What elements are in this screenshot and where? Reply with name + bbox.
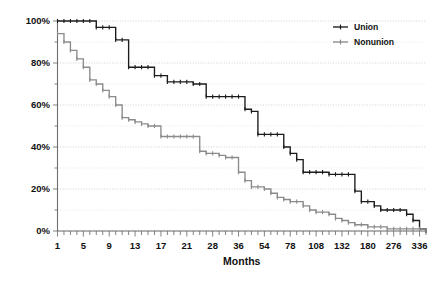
legend-label: Union xyxy=(354,22,378,32)
y-axis-tick-label: 20% xyxy=(31,183,51,194)
line-chart: 100%80%60%40%20%0% 159131721283654781081… xyxy=(0,0,445,283)
y-axis-tick-label: 0% xyxy=(36,225,50,236)
x-axis-tick-labels: 15913172128365478108132180276336 xyxy=(55,240,428,251)
y-axis-tick-label: 40% xyxy=(31,141,51,152)
x-axis-tick-label: 276 xyxy=(386,240,402,251)
x-axis-tick-label: 9 xyxy=(107,240,112,251)
x-axis-tick-label: 336 xyxy=(412,240,428,251)
chart-container: 100%80%60%40%20%0% 159131721283654781081… xyxy=(0,0,445,283)
x-axis-tick-label: 108 xyxy=(308,240,324,251)
y-axis-tick-label: 60% xyxy=(31,99,51,110)
y-axis-tick-label: 100% xyxy=(26,15,51,26)
x-axis-tick-label: 28 xyxy=(207,240,218,251)
x-axis-tick-label: 54 xyxy=(259,240,270,251)
x-axis-tick-label: 180 xyxy=(360,240,376,251)
x-axis-tick-label: 17 xyxy=(156,240,167,251)
x-axis-tick-label: 1 xyxy=(55,240,61,251)
x-axis-title: Months xyxy=(223,255,260,267)
y-axis-tick-label: 80% xyxy=(31,57,51,68)
x-axis-tick-label: 78 xyxy=(285,240,296,251)
x-axis-tick-label: 21 xyxy=(182,240,193,251)
x-axis-tick-label: 132 xyxy=(334,240,350,251)
legend-label: Nonunion xyxy=(354,37,394,47)
x-axis-tick-label: 5 xyxy=(81,240,87,251)
x-axis-tick-label: 13 xyxy=(130,240,141,251)
x-axis-tick-label: 36 xyxy=(233,240,244,251)
